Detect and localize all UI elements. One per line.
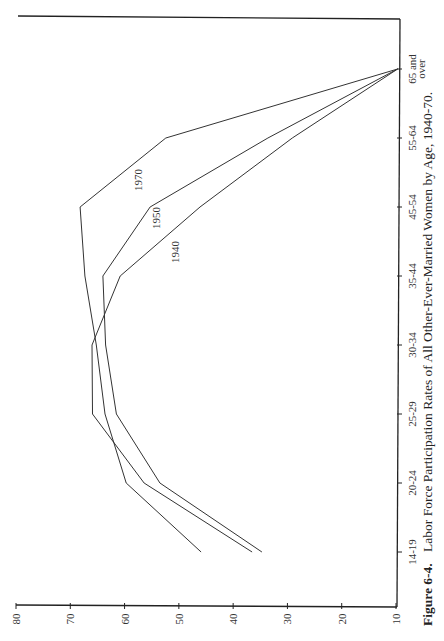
series-label-1950: 1950 [150, 207, 162, 230]
category-axis [397, 19, 400, 607]
category-tick-label: 55-64 [406, 125, 418, 151]
value-tick-label: 40 [227, 613, 239, 625]
category-tick-label: over [415, 59, 427, 79]
series-line-1950 [103, 69, 398, 552]
category-tick-label: 30-34 [406, 332, 418, 358]
value-tick-label: 50 [173, 613, 185, 625]
value-tick-label: 80 [10, 613, 22, 625]
category-tick-label: 14-19 [406, 539, 418, 565]
category-tick-label: 45-54 [406, 194, 418, 220]
category-tick-label: 35-44 [406, 263, 418, 289]
value-axis [16, 605, 397, 607]
value-tick-label: 30 [281, 613, 293, 625]
series-label-1940: 1940 [169, 241, 181, 264]
series-label-1970: 1970 [132, 169, 144, 192]
category-tick-label: 20-24 [406, 470, 418, 496]
line-chart: 1020304050607080 14-1920-2425-2930-3435-… [0, 0, 444, 641]
category-tick-label: 25-29 [406, 401, 418, 427]
top-border [18, 16, 400, 19]
value-tick-label: 70 [64, 613, 76, 625]
value-tick-label: 60 [119, 613, 131, 625]
caption-text: Labor Force Participation Rates of All O… [420, 92, 435, 552]
series-line-1940 [92, 69, 398, 552]
value-tick-label: 10 [390, 613, 402, 625]
figure-label: Figure 6-4. [420, 563, 435, 626]
svg-text:Figure 6-4. Labor Force: Figure 6-4. Labor Force Participation Ra… [420, 92, 435, 626]
series-line-1970 [80, 69, 398, 552]
figure-caption: Figure 6-4. Labor Force Participation Ra… [420, 92, 435, 626]
value-tick-label: 20 [336, 613, 348, 625]
series-lines [80, 69, 398, 552]
